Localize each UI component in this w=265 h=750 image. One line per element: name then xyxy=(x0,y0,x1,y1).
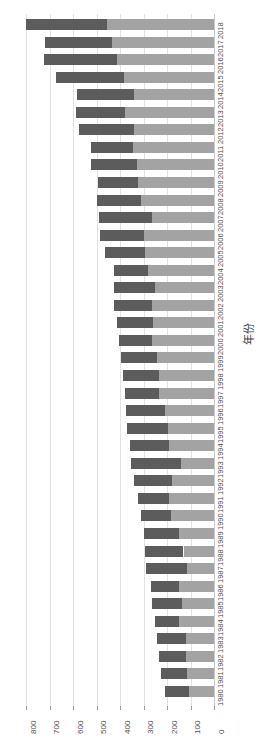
bar-segment-light[interactable] xyxy=(184,546,215,557)
bar-row[interactable] xyxy=(0,616,215,627)
bar-segment-light[interactable] xyxy=(155,282,214,293)
bar-segment-dark[interactable] xyxy=(134,475,172,486)
bar-segment-dark[interactable] xyxy=(157,633,186,644)
bar-segment-dark[interactable] xyxy=(114,300,152,311)
bar-segment-dark[interactable] xyxy=(138,493,170,504)
bar-segment-dark[interactable] xyxy=(145,546,184,557)
bar-row[interactable] xyxy=(0,335,215,346)
bar-row[interactable] xyxy=(0,388,215,399)
bar-segment-dark[interactable] xyxy=(117,317,153,328)
bar-segment-light[interactable] xyxy=(186,633,214,644)
bar-row[interactable] xyxy=(0,458,215,469)
bar-segment-dark[interactable] xyxy=(114,282,155,293)
bar-row[interactable] xyxy=(0,54,215,65)
bar-segment-dark[interactable] xyxy=(152,598,183,609)
bar-row[interactable] xyxy=(0,651,215,662)
bar-segment-dark[interactable] xyxy=(130,440,170,451)
bar-segment-dark[interactable] xyxy=(105,247,145,258)
bar-segment-dark[interactable] xyxy=(114,265,148,276)
bar-row[interactable] xyxy=(0,510,215,521)
bar-row[interactable] xyxy=(0,581,215,592)
bar-row[interactable] xyxy=(0,317,215,328)
bar-segment-dark[interactable] xyxy=(91,142,133,153)
bar-segment-light[interactable] xyxy=(141,195,214,206)
bar-segment-light[interactable] xyxy=(157,352,215,363)
bar-segment-light[interactable] xyxy=(165,405,214,416)
bar-segment-dark[interactable] xyxy=(91,159,137,170)
bar-segment-light[interactable] xyxy=(159,388,214,399)
bar-row[interactable] xyxy=(0,159,215,170)
bar-segment-light[interactable] xyxy=(153,317,214,328)
bar-segment-dark[interactable] xyxy=(45,37,112,48)
bar-segment-light[interactable] xyxy=(134,124,214,135)
bar-segment-dark[interactable] xyxy=(123,370,159,381)
bar-row[interactable] xyxy=(0,124,215,135)
bar-segment-dark[interactable] xyxy=(77,89,135,100)
bar-segment-light[interactable] xyxy=(186,651,214,662)
bar-row[interactable] xyxy=(0,440,215,451)
bar-segment-light[interactable] xyxy=(134,89,214,100)
bar-segment-dark[interactable] xyxy=(159,651,186,662)
bar-segment-dark[interactable] xyxy=(141,510,170,521)
bar-segment-dark[interactable] xyxy=(56,72,124,83)
bar-segment-dark[interactable] xyxy=(79,124,134,135)
bar-segment-dark[interactable] xyxy=(131,458,181,469)
bar-segment-light[interactable] xyxy=(187,563,214,574)
bar-segment-dark[interactable] xyxy=(98,177,138,188)
bar-segment-dark[interactable] xyxy=(119,335,152,346)
bar-segment-light[interactable] xyxy=(172,475,214,486)
bar-row[interactable] xyxy=(0,195,215,206)
bar-row[interactable] xyxy=(0,546,215,557)
bar-row[interactable] xyxy=(0,230,215,241)
bar-row[interactable] xyxy=(0,265,215,276)
bar-segment-dark[interactable] xyxy=(146,563,187,574)
bar-row[interactable] xyxy=(0,686,215,697)
bar-segment-light[interactable] xyxy=(112,37,214,48)
bar-row[interactable] xyxy=(0,668,215,679)
bar-segment-light[interactable] xyxy=(179,616,214,627)
bar-row[interactable] xyxy=(0,352,215,363)
bar-row[interactable] xyxy=(0,493,215,504)
bar-row[interactable] xyxy=(0,107,215,118)
bar-segment-light[interactable] xyxy=(152,212,214,223)
bar-segment-dark[interactable] xyxy=(126,405,165,416)
bar-row[interactable] xyxy=(0,598,215,609)
bar-segment-light[interactable] xyxy=(181,458,214,469)
bar-segment-light[interactable] xyxy=(107,19,214,30)
bar-row[interactable] xyxy=(0,423,215,434)
bar-segment-dark[interactable] xyxy=(161,668,187,679)
bar-segment-dark[interactable] xyxy=(151,581,179,592)
bar-segment-light[interactable] xyxy=(124,72,214,83)
bar-segment-light[interactable] xyxy=(168,423,214,434)
bar-segment-dark[interactable] xyxy=(76,107,125,118)
bar-segment-light[interactable] xyxy=(171,510,214,521)
bar-row[interactable] xyxy=(0,282,215,293)
bar-segment-dark[interactable] xyxy=(125,388,159,399)
bar-segment-light[interactable] xyxy=(152,335,214,346)
bar-segment-light[interactable] xyxy=(145,247,214,258)
bar-row[interactable] xyxy=(0,405,215,416)
bar-segment-dark[interactable] xyxy=(155,616,178,627)
bar-segment-light[interactable] xyxy=(187,668,214,679)
bar-row[interactable] xyxy=(0,177,215,188)
bar-segment-light[interactable] xyxy=(179,528,214,539)
bar-segment-light[interactable] xyxy=(144,230,214,241)
bar-segment-dark[interactable] xyxy=(100,230,143,241)
bar-row[interactable] xyxy=(0,300,215,311)
bar-row[interactable] xyxy=(0,19,215,30)
bar-segment-light[interactable] xyxy=(159,370,214,381)
bar-segment-light[interactable] xyxy=(137,159,214,170)
bar-row[interactable] xyxy=(0,528,215,539)
bar-segment-dark[interactable] xyxy=(165,686,190,697)
bar-row[interactable] xyxy=(0,142,215,153)
bar-row[interactable] xyxy=(0,212,215,223)
bar-segment-light[interactable] xyxy=(133,142,214,153)
bar-row[interactable] xyxy=(0,370,215,381)
bar-row[interactable] xyxy=(0,247,215,258)
bar-segment-light[interactable] xyxy=(169,440,214,451)
bar-segment-light[interactable] xyxy=(148,265,214,276)
bar-segment-light[interactable] xyxy=(169,493,214,504)
bar-segment-light[interactable] xyxy=(138,177,214,188)
bar-row[interactable] xyxy=(0,37,215,48)
bar-segment-dark[interactable] xyxy=(121,352,156,363)
